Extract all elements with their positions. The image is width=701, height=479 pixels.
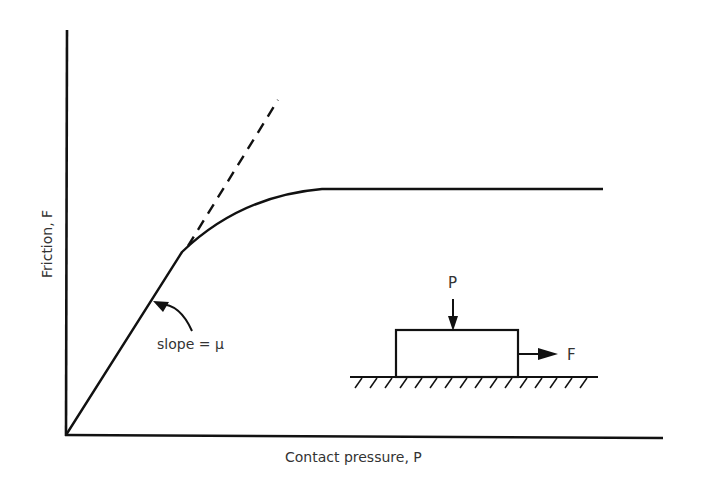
force-arrowhead-icon xyxy=(538,348,558,360)
y-axis-label: Friction, F xyxy=(39,210,55,278)
force-label: F xyxy=(567,346,576,364)
linear-extension-dashed-line xyxy=(188,100,278,246)
block-inset: P F xyxy=(350,274,598,388)
x-axis xyxy=(65,435,663,438)
friction-diagram: slope = μ P F xyxy=(0,0,701,479)
ground-hatching xyxy=(355,378,587,388)
slope-annotation: slope = μ xyxy=(157,336,224,352)
block xyxy=(396,330,518,377)
load-arrowhead-icon xyxy=(448,316,458,331)
load-label: P xyxy=(448,274,457,292)
arrowhead-icon xyxy=(153,301,169,312)
y-axis xyxy=(66,30,67,436)
x-axis-label: Contact pressure, P xyxy=(285,449,422,465)
friction-curve xyxy=(66,189,603,435)
